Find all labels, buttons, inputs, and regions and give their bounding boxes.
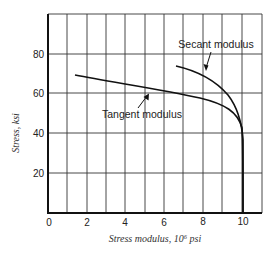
x-tick-labels: 0 2 4 6 8 10	[46, 216, 249, 228]
tangent-arrow	[138, 94, 149, 109]
svg-text:6: 6	[161, 217, 167, 228]
svg-text:40: 40	[33, 128, 45, 139]
secant-modulus-curve	[176, 66, 243, 213]
tangent-modulus-label: Tangent modulus	[102, 108, 182, 120]
y-axis-label: Stress, ksi	[10, 113, 21, 153]
y-tick-labels: 80 60 40 20	[33, 49, 45, 179]
x-axis-label: Stress modulus, 10⁶ psi	[109, 233, 202, 244]
tangent-modulus-curve	[75, 75, 243, 213]
secant-arrow	[204, 52, 212, 71]
svg-text:10: 10	[237, 216, 249, 227]
svg-text:4: 4	[122, 217, 128, 228]
secant-modulus-label: Secant modulus	[178, 38, 253, 50]
svg-text:60: 60	[33, 88, 45, 99]
svg-text:0: 0	[46, 217, 52, 228]
svg-text:2: 2	[84, 217, 90, 228]
svg-text:8: 8	[200, 216, 206, 227]
svg-text:80: 80	[33, 49, 45, 60]
svg-text:20: 20	[33, 168, 45, 179]
chart: 80 60 40 20 0 2 4 6 8 10 Stress modulus,…	[0, 0, 275, 254]
